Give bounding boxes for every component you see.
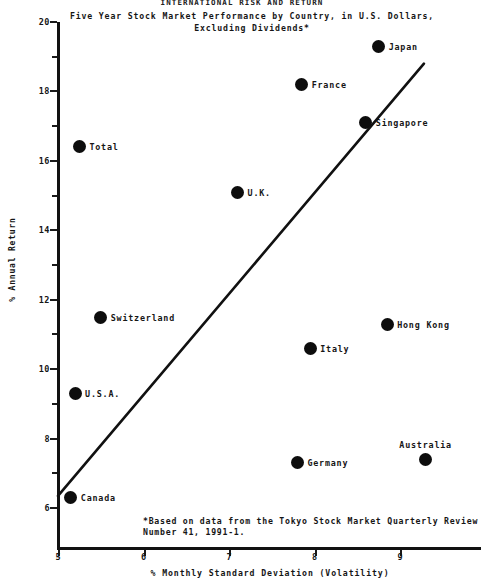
data-point — [372, 40, 385, 53]
data-point — [94, 311, 107, 324]
data-point-label: U.K. — [248, 188, 271, 198]
chart-main-title: INTERNATIONAL RISK AND RETURN — [0, 0, 484, 5]
y-tick-major — [50, 229, 57, 231]
data-point — [69, 387, 82, 400]
x-tick-label: 5 — [43, 552, 73, 562]
data-point — [419, 453, 432, 466]
data-point — [73, 140, 86, 153]
data-point-label: Italy — [320, 344, 349, 354]
data-point — [381, 318, 394, 331]
y-tick-minor — [52, 195, 57, 197]
y-tick-label: 6 — [10, 503, 50, 513]
data-point-label: Japan — [389, 42, 418, 52]
data-point — [295, 78, 308, 91]
data-point-label: Total — [89, 142, 118, 152]
y-tick-label: 8 — [10, 434, 50, 444]
y-tick-minor — [52, 333, 57, 335]
chart-subtitle: Five Year Stock Market Performance by Co… — [42, 10, 462, 34]
data-point — [291, 456, 304, 469]
y-tick-minor — [52, 125, 57, 127]
data-point-label: Singapore — [376, 118, 429, 128]
data-point-label: France — [312, 80, 347, 90]
y-tick-label: 16 — [10, 156, 50, 166]
data-point-label: Germany — [307, 458, 348, 468]
y-tick-minor — [52, 403, 57, 405]
y-tick-major — [50, 438, 57, 440]
y-tick-major — [50, 507, 57, 509]
y-tick-major — [50, 90, 57, 92]
x-tick-label: 9 — [385, 552, 415, 562]
data-point-label: Switzerland — [111, 313, 175, 323]
y-axis-title: % Annual Return — [8, 200, 17, 320]
x-tick-label: 6 — [129, 552, 159, 562]
y-tick-minor — [52, 264, 57, 266]
data-point-label: U.S.A. — [85, 389, 120, 399]
data-point — [359, 116, 372, 129]
data-point — [64, 491, 77, 504]
data-point-label: Hong Kong — [397, 320, 450, 330]
y-tick-minor — [52, 56, 57, 58]
data-point-label: Canada — [81, 493, 116, 503]
y-tick-major — [50, 21, 57, 23]
y-tick-label: 10 — [10, 364, 50, 374]
regression-trendline — [58, 64, 424, 496]
x-tick-label: 8 — [300, 552, 330, 562]
y-tick-major — [50, 368, 57, 370]
y-tick-minor — [52, 472, 57, 474]
y-tick-major — [50, 160, 57, 162]
y-axis-line — [57, 22, 60, 550]
y-tick-label: 18 — [10, 86, 50, 96]
x-tick-label: 7 — [214, 552, 244, 562]
data-point-label: Australia — [399, 440, 452, 450]
x-axis-line — [57, 547, 481, 550]
data-point — [304, 342, 317, 355]
y-tick-label: 20 — [10, 17, 50, 27]
chart-footnote: *Based on data from the Tokyo Stock Mark… — [143, 516, 478, 538]
x-axis-title: % Monthly Standard Deviation (Volatility… — [70, 568, 470, 578]
data-point — [231, 186, 244, 199]
y-tick-major — [50, 299, 57, 301]
chart-figure: INTERNATIONAL RISK AND RETURN Five Year … — [0, 0, 484, 581]
